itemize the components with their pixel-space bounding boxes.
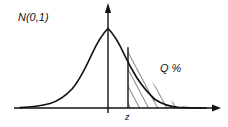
cutoff-tick-label: z <box>124 112 130 122</box>
distribution-plot: N(0,1) Q % z <box>0 0 228 127</box>
distribution-label: N(0,1) <box>18 11 49 23</box>
y-axis <box>105 3 111 113</box>
shaded-area-label: Q % <box>160 62 182 74</box>
normal-distribution-figure: N(0,1) Q % z <box>0 0 228 127</box>
shaded-tail-region <box>120 40 202 110</box>
